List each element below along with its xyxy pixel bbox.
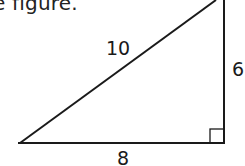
horizontal-leg-label: 8	[117, 149, 129, 166]
vertical-leg-label: 6	[232, 60, 244, 79]
right-angle-marker-icon	[210, 129, 224, 143]
hypotenuse-label: 10	[106, 39, 130, 58]
right-triangle-figure	[0, 0, 245, 166]
hypotenuse-line	[20, 0, 216, 143]
